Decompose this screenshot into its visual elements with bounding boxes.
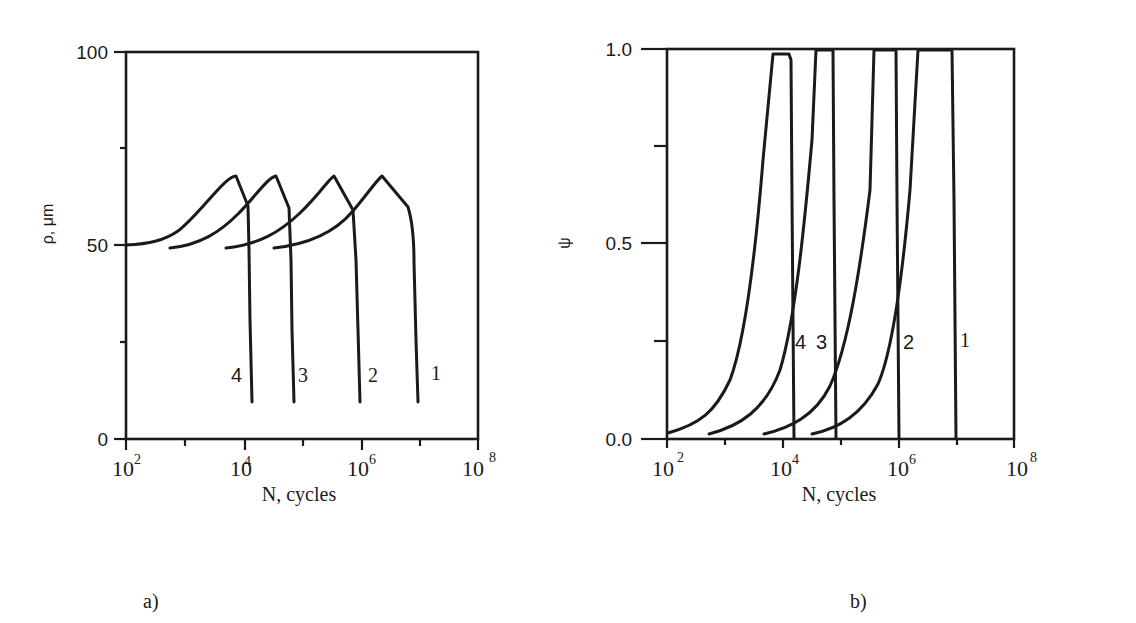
chart-a-ytick-50: 50 bbox=[87, 235, 108, 256]
svg-text:10: 10 bbox=[112, 456, 134, 481]
chart-a: 100 50 0 ρ, μm 10 2 10 4 10 6 10 bbox=[39, 42, 496, 613]
svg-text:8: 8 bbox=[1030, 450, 1037, 465]
chart-a-x-ticks bbox=[126, 439, 478, 450]
chart-a-y-axis-label: ρ, μm bbox=[39, 204, 56, 245]
chart-a-curve-label-1: 1 bbox=[431, 362, 441, 384]
chart-b-caption: b) bbox=[850, 590, 867, 613]
chart-a-xtick-1e8: 10 8 bbox=[462, 450, 496, 481]
chart-a-curve-label-4: 4 bbox=[231, 364, 242, 386]
svg-text:2: 2 bbox=[677, 450, 684, 465]
chart-b-xtick-1e4: 10 4 bbox=[770, 452, 799, 481]
chart-b-curve-label-3: 3 bbox=[816, 331, 827, 353]
chart-b-curve-label-2: 2 bbox=[903, 331, 914, 353]
chart-a-ytick-100: 100 bbox=[76, 42, 108, 63]
svg-text:10: 10 bbox=[462, 456, 484, 481]
chart-b: 1.0 0.5 0.0 ψ 10 2 10 4 10 6 10 bbox=[556, 39, 1037, 613]
chart-a-curve-label-3: 3 bbox=[298, 364, 308, 386]
chart-b-y-ticks bbox=[641, 49, 667, 439]
svg-text:4: 4 bbox=[792, 452, 799, 467]
svg-text:10: 10 bbox=[887, 456, 909, 481]
chart-b-curve-3 bbox=[709, 50, 836, 438]
chart-a-ytick-0: 0 bbox=[97, 429, 108, 450]
svg-text:4: 4 bbox=[244, 454, 251, 469]
chart-a-curve-label-2: 2 bbox=[368, 364, 378, 386]
chart-b-plot-frame bbox=[667, 49, 1014, 439]
svg-text:10: 10 bbox=[652, 456, 674, 481]
chart-b-curve-label-1: 1 bbox=[960, 329, 970, 351]
chart-b-ytick-1: 1.0 bbox=[606, 39, 632, 60]
svg-text:10: 10 bbox=[1006, 456, 1028, 481]
chart-b-y-axis-label: ψ bbox=[556, 237, 573, 248]
chart-a-curve-1 bbox=[274, 176, 418, 402]
figure: 100 50 0 ρ, μm 10 2 10 4 10 6 10 bbox=[0, 0, 1136, 623]
chart-b-x-ticks bbox=[667, 439, 1014, 448]
chart-a-y-ticks bbox=[114, 52, 126, 439]
svg-text:6: 6 bbox=[909, 452, 916, 467]
chart-a-x-axis-label: N, cycles bbox=[262, 483, 337, 506]
svg-text:10: 10 bbox=[770, 456, 792, 481]
svg-text:8: 8 bbox=[489, 450, 496, 465]
chart-b-ytick-0-5: 0.5 bbox=[606, 233, 632, 254]
chart-b-curve-label-4: 4 bbox=[795, 331, 806, 353]
svg-text:2: 2 bbox=[134, 452, 141, 467]
chart-b-xtick-1e8: 10 8 bbox=[1006, 450, 1037, 481]
chart-a-xtick-1e6: 10 6 bbox=[347, 452, 376, 481]
svg-text:10: 10 bbox=[347, 456, 369, 481]
chart-a-caption: a) bbox=[143, 590, 159, 613]
chart-b-xtick-1e2: 10 2 bbox=[652, 450, 684, 481]
svg-text:6: 6 bbox=[369, 452, 376, 467]
chart-b-x-axis-label: N, cycles bbox=[802, 483, 877, 506]
chart-a-xtick-1e4: 10 4 bbox=[230, 454, 252, 481]
chart-a-xtick-1e2: 10 2 bbox=[112, 452, 141, 481]
chart-b-ytick-0: 0.0 bbox=[606, 429, 632, 450]
chart-b-xtick-1e6: 10 6 bbox=[887, 452, 916, 481]
